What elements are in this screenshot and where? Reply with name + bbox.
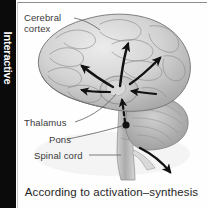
brain-diagram[interactable]: Cerebral cortex Thalamus Pons Spinal cor…	[16, 4, 207, 182]
interactive-tab-label: Interactive	[2, 32, 14, 85]
interactive-figure-panel: Interactive	[0, 0, 207, 208]
pons-marker-dot	[122, 121, 129, 128]
label-pons: Pons	[49, 134, 71, 145]
figure-caption: According to activation–synthesis	[16, 186, 207, 198]
label-spinal-cord: Spinal cord	[34, 150, 83, 161]
label-cerebral-cortex: Cerebral cortex	[24, 12, 61, 34]
label-thalamus: Thalamus	[24, 117, 67, 128]
label-cerebral-cortex-line1: Cerebral	[24, 12, 61, 23]
top-divider	[18, 2, 207, 3]
interactive-tab[interactable]: Interactive	[0, 0, 16, 208]
label-cerebral-cortex-line2: cortex	[24, 23, 61, 34]
figure-content: Cerebral cortex Thalamus Pons Spinal cor…	[16, 0, 207, 208]
